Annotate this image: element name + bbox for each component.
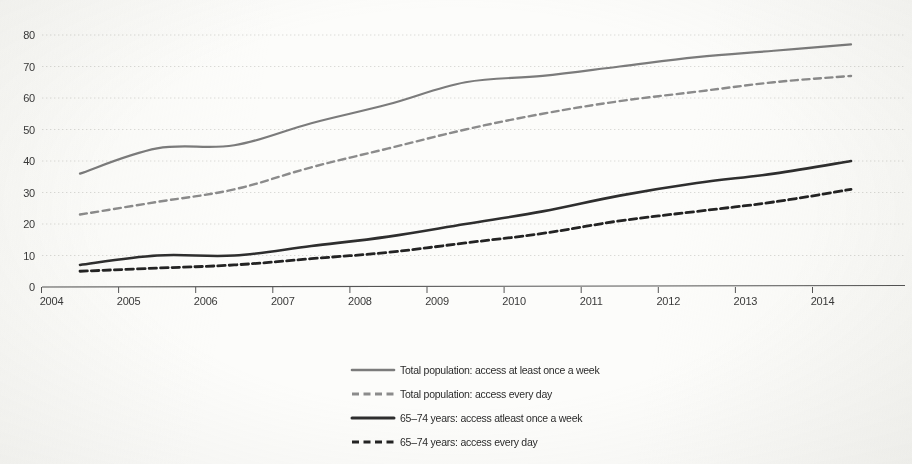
x-axis-tick-label: 2014	[811, 295, 835, 307]
series-line-4	[80, 189, 851, 271]
y-axis-tick-label: 80	[23, 29, 35, 41]
x-axis-tick-label: 2007	[271, 295, 295, 307]
series-line-3	[80, 161, 851, 265]
x-axis-tick-label: 2011	[580, 295, 603, 307]
x-axis	[42, 286, 906, 294]
legend-label-2: Total population: access every day	[400, 388, 553, 400]
legend-label-3: 65–74 years: access atleast once a week	[400, 412, 583, 424]
x-axis-tick-label: 2012	[656, 295, 680, 307]
series-group	[80, 44, 851, 271]
legend-label-4: 65–74 years: access every day	[400, 436, 538, 448]
x-axis-tick-label: 2010	[502, 295, 526, 307]
chart-figure: 01020304050607080 2004200520062007200820…	[0, 0, 912, 464]
y-axis-tick-label: 10	[23, 250, 35, 262]
x-axis-tick-label: 2006	[194, 295, 218, 307]
series-line-1	[80, 44, 851, 173]
x-axis-tick-label: 2005	[117, 295, 141, 307]
chart-legend: Total population: access at least once a…	[352, 364, 600, 448]
x-axis-line	[42, 286, 905, 288]
y-axis-tick-label: 20	[23, 218, 35, 230]
line-chart: 01020304050607080 2004200520062007200820…	[0, 0, 912, 464]
y-axis-tick-label: 0	[29, 281, 35, 293]
x-axis-tick-label: 2013	[734, 295, 758, 307]
x-axis-tick-label: 2008	[348, 295, 372, 307]
series-line-2	[80, 76, 851, 215]
legend-label-1: Total population: access at least once a…	[400, 364, 600, 376]
x-axis-tick-label: 2004	[40, 295, 64, 307]
y-axis-tick-label: 60	[23, 92, 35, 104]
x-axis-tick-labels: 2004200520062007200820092010201120122013…	[40, 295, 835, 307]
y-axis-tick-label: 70	[23, 61, 35, 73]
y-axis-tick-label: 50	[23, 124, 35, 136]
y-axis-tick-labels: 01020304050607080	[23, 29, 35, 293]
y-axis-tick-label: 30	[23, 187, 35, 199]
y-axis-tick-label: 40	[23, 155, 35, 167]
x-axis-tick-label: 2009	[425, 295, 449, 307]
